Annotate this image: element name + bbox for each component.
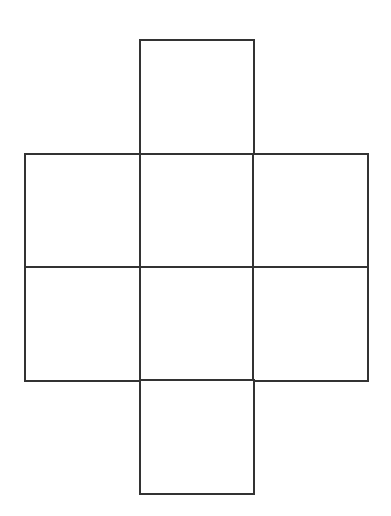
- net-square-mid-row1-right: [252, 153, 369, 269]
- net-square-mid-row1-left: [24, 153, 142, 269]
- net-square-mid-row2-right: [252, 266, 369, 382]
- net-square-top: [139, 39, 255, 156]
- net-square-bottom: [139, 379, 255, 495]
- net-square-mid-row1-center: [139, 153, 255, 269]
- net-square-mid-row2-center: [139, 266, 255, 382]
- net-square-mid-row2-left: [24, 266, 142, 382]
